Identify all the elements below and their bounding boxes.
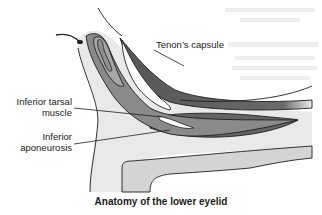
figure-caption: Anatomy of the lower eyelid xyxy=(0,196,322,207)
label-inferior-aponeurosis: Inferior aponeurosis xyxy=(6,131,72,153)
orbital-septum-line xyxy=(98,8,122,36)
label-inferior-tarsal-muscle: Inferior tarsal muscle xyxy=(6,96,72,118)
lash-follicle xyxy=(77,40,83,44)
label-line: aponeurosis xyxy=(6,142,72,153)
eyelash xyxy=(56,34,80,42)
label-line: muscle xyxy=(6,107,72,118)
label-line: Inferior xyxy=(6,131,72,142)
leader-tenons-capsule xyxy=(154,50,184,66)
label-line: Inferior tarsal xyxy=(6,96,72,107)
label-tenons-capsule: Tenon’s capsule xyxy=(156,39,224,50)
background-bleed-texture xyxy=(225,8,318,80)
